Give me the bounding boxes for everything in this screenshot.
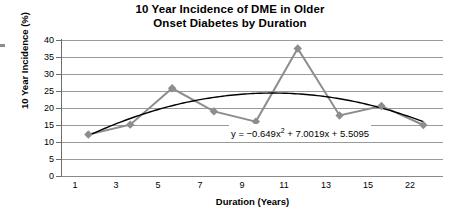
x-axis-title: Duration (Years) — [60, 196, 445, 207]
equation-prefix: y = −0.649x — [231, 128, 281, 139]
x-tick-label-3: 3 — [96, 181, 136, 190]
left-edge-artifact — [0, 44, 5, 47]
trendline-equation-label: y = −0.649x2 + 7.0019x + 5.5095 — [229, 124, 371, 141]
y-tick-10 — [56, 142, 61, 143]
y-tick-30 — [56, 74, 61, 75]
x-tick-label-13: 13 — [306, 181, 346, 190]
y-tick-20 — [56, 108, 61, 109]
x-tick-label-7: 7 — [180, 181, 220, 190]
equation-suffix: + 7.0019x + 5.5095 — [285, 128, 370, 139]
y-tick-label-40: 40 — [26, 36, 54, 45]
y-tick-label-15: 15 — [26, 121, 54, 130]
gridline-20 — [62, 108, 443, 109]
x-tick-label-11: 11 — [264, 181, 304, 190]
gridline-25 — [62, 91, 443, 92]
y-tick-label-10: 10 — [26, 138, 54, 147]
y-tick-35 — [56, 57, 61, 58]
gridline-40 — [62, 40, 443, 41]
x-tick-label-22: 22 — [390, 181, 430, 190]
gridline-5 — [62, 159, 443, 160]
y-axis-line — [61, 39, 62, 177]
y-tick-label-20: 20 — [26, 104, 54, 113]
chart-title-line-2: Onset Diabetes by Duration — [60, 16, 400, 30]
y-tick-label-30: 30 — [26, 70, 54, 79]
gridline-0 — [62, 176, 443, 177]
gridline-35 — [62, 57, 443, 58]
x-tick-label-5: 5 — [138, 181, 178, 190]
chart-title: 10 Year Incidence of DME in Older Onset … — [60, 2, 400, 30]
plot-area — [62, 40, 443, 176]
y-tick-15 — [56, 125, 61, 126]
gridline-10 — [62, 142, 443, 143]
x-tick-label-1: 1 — [55, 181, 95, 190]
y-tick-25 — [56, 91, 61, 92]
chart-title-line-1: 10 Year Incidence of DME in Older — [60, 2, 400, 16]
y-tick-label-0: 0 — [26, 172, 54, 181]
x-tick-label-15: 15 — [348, 181, 388, 190]
x-tick-label-9: 9 — [222, 181, 262, 190]
y-tick-label-35: 35 — [26, 53, 54, 62]
gridline-30 — [62, 74, 443, 75]
y-tick-40 — [56, 40, 61, 41]
y-tick-label-5: 5 — [26, 155, 54, 164]
y-tick-0 — [56, 176, 61, 177]
y-tick-5 — [56, 159, 61, 160]
chart-container: 10 Year Incidence of DME in Older Onset … — [0, 0, 463, 216]
y-tick-label-25: 25 — [26, 87, 54, 96]
